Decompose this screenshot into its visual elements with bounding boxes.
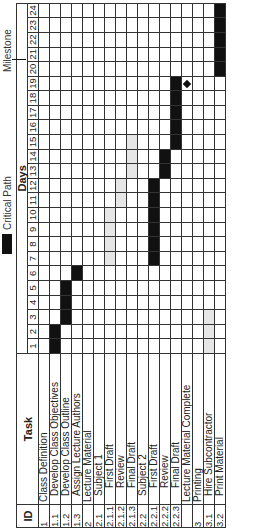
empty-cell bbox=[149, 339, 160, 354]
empty-cell bbox=[105, 295, 116, 310]
empty-cell bbox=[39, 76, 50, 91]
empty-cell bbox=[39, 47, 50, 62]
empty-cell bbox=[72, 164, 83, 179]
empty-cell bbox=[171, 339, 182, 354]
empty-cell bbox=[193, 135, 204, 150]
empty-cell bbox=[61, 91, 72, 106]
empty-cell bbox=[127, 120, 138, 135]
empty-cell bbox=[94, 208, 105, 223]
empty-cell bbox=[61, 324, 72, 339]
critical-bar-cell bbox=[215, 18, 226, 33]
day-number: 16 bbox=[28, 120, 39, 135]
empty-cell bbox=[182, 47, 193, 62]
empty-cell bbox=[105, 3, 116, 18]
empty-cell bbox=[72, 251, 83, 266]
empty-cell bbox=[50, 281, 61, 296]
empty-cell bbox=[204, 281, 215, 296]
empty-cell bbox=[94, 178, 105, 193]
empty-cell bbox=[72, 135, 83, 150]
day-number: 9 bbox=[28, 222, 39, 237]
task-row: 2.2.2Review bbox=[160, 3, 171, 527]
empty-cell bbox=[215, 339, 226, 354]
empty-cell bbox=[116, 237, 127, 252]
task-row: 1Class Definition bbox=[39, 3, 50, 527]
empty-cell bbox=[61, 266, 72, 281]
empty-cell bbox=[215, 222, 226, 237]
empty-cell bbox=[193, 105, 204, 120]
empty-cell bbox=[204, 91, 215, 106]
empty-cell bbox=[193, 178, 204, 193]
empty-cell bbox=[105, 310, 116, 325]
empty-cell bbox=[204, 295, 215, 310]
empty-cell bbox=[83, 281, 94, 296]
empty-cell bbox=[160, 3, 171, 18]
empty-cell bbox=[94, 149, 105, 164]
empty-cell bbox=[94, 76, 105, 91]
task-name: Subject 2 bbox=[138, 354, 149, 505]
empty-cell bbox=[61, 3, 72, 18]
empty-cell bbox=[94, 222, 105, 237]
critical-bar-cell bbox=[61, 310, 72, 325]
task-row: 2.2Subject 2 bbox=[138, 3, 149, 527]
empty-cell bbox=[182, 120, 193, 135]
empty-cell bbox=[72, 76, 83, 91]
task-row: 1.3Assign Lecture Authors bbox=[72, 3, 83, 527]
task-id: 2.1.2 bbox=[116, 505, 127, 528]
empty-cell bbox=[83, 91, 94, 106]
critical-bar-cell bbox=[171, 91, 182, 106]
empty-cell bbox=[116, 149, 127, 164]
empty-cell bbox=[138, 237, 149, 252]
task-name: Develop Class Outline bbox=[61, 354, 72, 505]
empty-cell bbox=[138, 76, 149, 91]
empty-cell bbox=[50, 266, 61, 281]
empty-cell bbox=[160, 324, 171, 339]
task-name: Hire Subcontractor bbox=[204, 354, 215, 505]
empty-cell bbox=[149, 62, 160, 77]
empty-cell bbox=[72, 120, 83, 135]
day-number: 23 bbox=[28, 18, 39, 33]
empty-cell bbox=[138, 149, 149, 164]
empty-cell bbox=[39, 3, 50, 18]
empty-cell bbox=[160, 208, 171, 223]
empty-cell bbox=[50, 32, 61, 47]
empty-cell bbox=[61, 149, 72, 164]
empty-cell bbox=[171, 32, 182, 47]
empty-cell bbox=[72, 208, 83, 223]
critical-bar-cell bbox=[215, 62, 226, 77]
day-number: 18 bbox=[28, 91, 39, 106]
empty-cell bbox=[39, 251, 50, 266]
empty-cell bbox=[138, 281, 149, 296]
empty-cell bbox=[160, 339, 171, 354]
empty-cell bbox=[193, 310, 204, 325]
task-row: 2Lecture Material bbox=[83, 3, 94, 527]
empty-cell bbox=[94, 3, 105, 18]
empty-cell bbox=[149, 47, 160, 62]
empty-cell bbox=[39, 281, 50, 296]
empty-cell bbox=[50, 237, 61, 252]
legend-critical-path: Critical Path bbox=[2, 176, 13, 230]
day-number: 2 bbox=[28, 324, 39, 339]
empty-cell bbox=[149, 32, 160, 47]
empty-cell bbox=[204, 135, 215, 150]
empty-cell bbox=[61, 32, 72, 47]
empty-cell bbox=[182, 3, 193, 18]
day-number: 3 bbox=[28, 310, 39, 325]
empty-cell bbox=[72, 62, 83, 77]
task-rows: 1Class Definition1.1Develop Class Object… bbox=[39, 3, 226, 527]
empty-cell bbox=[138, 266, 149, 281]
empty-cell bbox=[215, 281, 226, 296]
empty-cell bbox=[215, 105, 226, 120]
empty-cell bbox=[83, 295, 94, 310]
task-bar-cell bbox=[116, 193, 127, 208]
critical-bar-cell bbox=[50, 339, 61, 354]
empty-cell bbox=[83, 178, 94, 193]
empty-cell bbox=[171, 193, 182, 208]
empty-cell bbox=[50, 149, 61, 164]
empty-cell bbox=[50, 164, 61, 179]
empty-cell bbox=[149, 266, 160, 281]
empty-cell bbox=[72, 91, 83, 106]
critical-bar-cell bbox=[149, 237, 160, 252]
empty-cell bbox=[61, 120, 72, 135]
empty-cell bbox=[116, 120, 127, 135]
empty-cell bbox=[72, 295, 83, 310]
